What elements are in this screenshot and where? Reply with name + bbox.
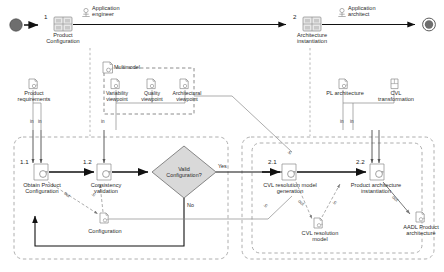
step-label-product-architecture-instantiation[interactable]: Product architecture instantiation [336, 182, 416, 195]
role-label-application-engineer: Application engineer [92, 5, 142, 18]
action-icon-2-2 [370, 164, 384, 180]
document-icon-variability [111, 79, 119, 89]
step-label-cvl-resolution-model-generation[interactable]: CVL resolution model generation [250, 182, 330, 195]
pin-label-in-3: in [101, 119, 105, 124]
artifact-label-configuration[interactable]: Configuration [76, 228, 134, 234]
document-icon-product-requirements [29, 79, 38, 89]
viewpoint-label-variability[interactable]: Variability viewpoint [96, 90, 138, 102]
decision-no-label: No [187, 202, 194, 208]
artifact-label-pl-architecture[interactable]: PL architecture [318, 90, 372, 96]
pins-1-1 [33, 130, 41, 163]
viewpoint-label-architectural[interactable]: Architectural viewpoint [164, 90, 210, 102]
document-icon-cvl-resolution-model [314, 218, 323, 228]
step-number-1-1: 1.1 [20, 158, 29, 165]
decision-yes-label: Yes [218, 163, 227, 169]
artifact-label-aadl-product-architecture[interactable]: AADL Product architecture [398, 224, 444, 237]
top-lane-flow [10, 17, 436, 31]
document-icon-architectural [180, 79, 188, 89]
step-label-consistency-validation[interactable]: Consistency validation [80, 182, 132, 195]
action-icon-2-1 [282, 164, 296, 180]
document-icon-configuration [100, 213, 109, 223]
activity-number-2: 2 [293, 13, 296, 20]
multimodel-to-step21-line [194, 96, 292, 152]
actor-icon-engineer [82, 8, 89, 16]
pin-label-in-5: in [350, 119, 354, 124]
document-icon-multimodel [103, 62, 113, 73]
document-icon-quality [147, 79, 155, 89]
flow-no [35, 198, 184, 246]
pin-label-in-1: in [30, 119, 34, 124]
artifact-label-cvl-transformation[interactable]: CVL transformation [372, 90, 420, 103]
step-number-1-2: 1.2 [83, 158, 92, 165]
activity-label-product-configuration[interactable]: Product Configuration [36, 32, 90, 45]
document-icon-pl-architecture [339, 79, 348, 89]
document-icon-aadl-product-architecture [416, 212, 425, 222]
multimodel-label[interactable]: Multimodel [114, 64, 140, 70]
activity-label-architecture-instantiation[interactable]: Architecture instantiation [285, 32, 339, 45]
action-icon-1-1 [34, 164, 48, 180]
action-icon-1-2 [97, 164, 111, 180]
activity-number-1: 1 [44, 13, 47, 20]
pin-label-in-2: in [38, 119, 42, 124]
artifact-label-product-requirements[interactable]: Product requirements [8, 90, 60, 103]
pin-label-in-4: in [340, 119, 344, 124]
step-number-2-2: 2.2 [356, 158, 365, 165]
decision-label[interactable]: Valid Configuration? [160, 166, 208, 179]
lane-containers [14, 137, 434, 259]
step-number-2-1: 2.1 [268, 158, 277, 165]
actor-icon-architect [338, 8, 345, 16]
transformation-icon-cvl [391, 79, 398, 89]
artifact-label-cvl-resolution-model[interactable]: CVL resolution model [292, 230, 348, 243]
role-label-application-architect: Application architect [348, 5, 398, 18]
diagram-canvas: 1 2 Product Configuration Architecture i… [0, 0, 444, 272]
pins-2-2 [372, 130, 379, 163]
